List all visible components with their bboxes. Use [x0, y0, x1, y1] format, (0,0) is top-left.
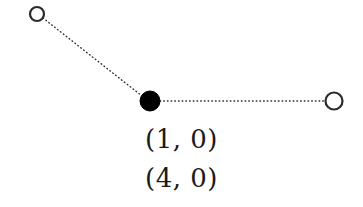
coordinate-label-first: (1, 0)	[0, 126, 363, 152]
open-node-left	[30, 7, 44, 21]
figure-canvas: (1, 0) (4, 0)	[0, 0, 363, 207]
open-node-right	[326, 93, 343, 110]
dotted-edge-left-center	[43, 18, 142, 96]
filled-node-center	[140, 91, 160, 111]
coordinate-label-second: (4, 0)	[0, 165, 363, 191]
